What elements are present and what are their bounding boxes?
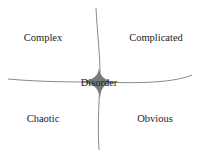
cynefin-diagram: Complex Complicated Chaotic Obvious Diso… bbox=[0, 0, 200, 163]
quadrant-obvious-label: Obvious bbox=[137, 113, 173, 124]
quadrant-complex-label: Complex bbox=[24, 32, 63, 43]
center-disorder-label: Disorder bbox=[81, 77, 118, 88]
quadrant-chaotic-label: Chaotic bbox=[27, 113, 60, 124]
quadrant-complicated-label: Complicated bbox=[129, 32, 183, 43]
